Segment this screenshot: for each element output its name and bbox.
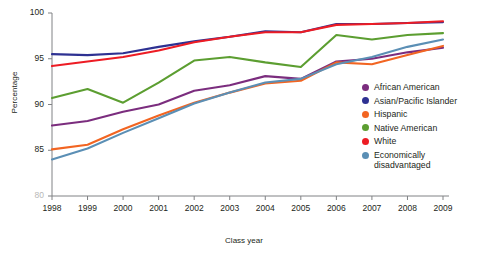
legend-item[interactable]: White bbox=[362, 136, 500, 147]
legend-color-swatch-icon bbox=[362, 124, 369, 131]
legend-item[interactable]: Native American bbox=[362, 123, 500, 134]
legend-color-swatch-icon bbox=[362, 111, 369, 118]
legend-color-swatch-icon bbox=[362, 152, 369, 159]
legend-item-label: Hispanic bbox=[374, 109, 407, 120]
legend-item-label: African American bbox=[374, 82, 440, 93]
legend-item-label: Asian/Pacific Islander bbox=[374, 96, 457, 107]
legend-item[interactable]: Economically disadvantaged bbox=[362, 150, 500, 171]
legend-color-swatch-icon bbox=[362, 97, 369, 104]
line-chart: Percentage Class year 10095908580 199819… bbox=[0, 0, 501, 254]
legend-color-swatch-icon bbox=[362, 138, 369, 145]
legend-item-label: Native American bbox=[374, 123, 437, 134]
legend-item-label: White bbox=[374, 136, 396, 147]
legend-item[interactable]: African American bbox=[362, 82, 500, 93]
legend: African AmericanAsian/Pacific IslanderHi… bbox=[362, 82, 500, 174]
legend-item[interactable]: Asian/Pacific Islander bbox=[362, 96, 500, 107]
legend-item[interactable]: Hispanic bbox=[362, 109, 500, 120]
legend-item-label: Economically disadvantaged bbox=[374, 150, 431, 171]
legend-color-swatch-icon bbox=[362, 84, 369, 91]
